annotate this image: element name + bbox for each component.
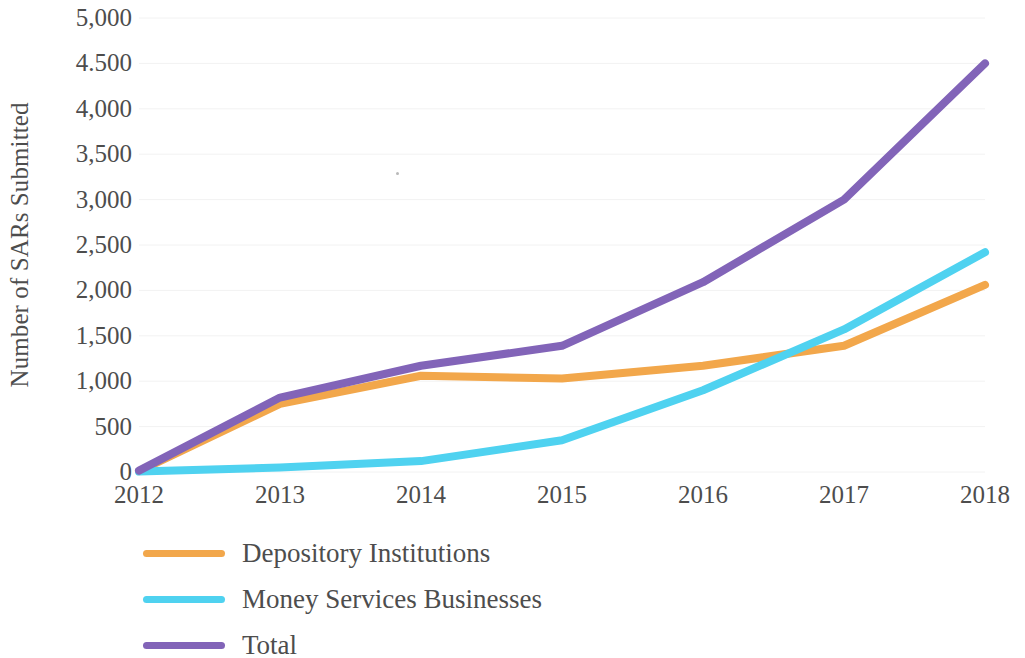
x-tick-label: 2016: [678, 481, 728, 509]
legend-label: Depository Institutions: [242, 540, 490, 567]
y-tick-label: 3,000: [36, 186, 132, 214]
y-tick-label: 3,500: [36, 140, 132, 168]
y-axis-title-text: Number of SARs Submitted: [6, 102, 34, 387]
y-tick-label: 1,000: [36, 367, 132, 395]
legend-label: Total: [242, 632, 297, 658]
legend-item[interactable]: Total: [143, 622, 743, 658]
series-lines: [139, 18, 985, 472]
y-tick-label: 4,000: [36, 95, 132, 123]
legend-color-swatch: [143, 642, 225, 649]
series-line: [139, 252, 985, 471]
x-tick-label: 2012: [114, 481, 164, 509]
legend-color-swatch: [143, 550, 225, 557]
stray-dot-artifact: [396, 172, 399, 175]
legend-item[interactable]: Money Services Businesses: [143, 576, 743, 622]
x-tick-label: 2018: [960, 481, 1010, 509]
x-tick-label: 2015: [537, 481, 587, 509]
x-tick-label: 2013: [255, 481, 305, 509]
legend-item[interactable]: Depository Institutions: [143, 530, 743, 576]
y-axis-title: Number of SARs Submitted: [0, 0, 40, 490]
y-tick-label: 2,000: [36, 276, 132, 304]
y-tick-label: 4.500: [36, 49, 132, 77]
legend-label: Money Services Businesses: [242, 586, 542, 613]
chart-legend: Depository InstitutionsMoney Services Bu…: [143, 530, 743, 658]
y-tick-label: 5,000: [36, 4, 132, 32]
legend-color-swatch: [143, 596, 225, 603]
x-tick-label: 2017: [819, 481, 869, 509]
plot-area: [139, 18, 985, 472]
y-tick-label: 500: [36, 413, 132, 441]
y-tick-label: 2,500: [36, 231, 132, 259]
y-axis-tick-labels: 05001,0001,5002,0002,5003,0003,5004,0004…: [36, 0, 132, 490]
x-axis-tick-labels: 2012201320142015201620172018: [139, 481, 985, 515]
y-tick-label: 1,500: [36, 322, 132, 350]
x-tick-label: 2014: [396, 481, 446, 509]
